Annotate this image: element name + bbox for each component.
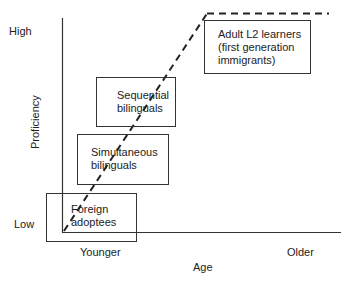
group-label-sequential-bilinguals-line1: Sequential: [117, 89, 169, 102]
group-label-adult-l2-learners-line3: immigrants): [218, 54, 275, 67]
group-label-adult-l2-learners-line2: (first generation: [218, 41, 294, 54]
y-axis-low-label: Low: [14, 218, 34, 231]
x-axis-low-label: Younger: [80, 246, 121, 259]
group-label-foreign-adoptees-line1: Foreign: [71, 203, 108, 216]
group-label-adult-l2-learners-line1: Adult L2 learners: [218, 28, 301, 41]
group-label-foreign-adoptees-line2: adoptees: [71, 216, 116, 229]
y-axis-title: Proficiency: [29, 95, 42, 149]
x-axis-high-label: Older: [287, 246, 314, 259]
x-axis-title: Age: [193, 261, 213, 274]
y-axis-high-label: High: [9, 25, 32, 38]
group-label-sequential-bilinguals-line2: bilinguals: [117, 102, 163, 115]
proficiency-age-diagram: High Low Proficiency Younger Older Age F…: [0, 0, 349, 286]
group-label-simultaneous-bilinguals-line2: bilinguals: [91, 159, 137, 172]
group-label-simultaneous-bilinguals-line1: Simultaneous: [91, 146, 158, 159]
